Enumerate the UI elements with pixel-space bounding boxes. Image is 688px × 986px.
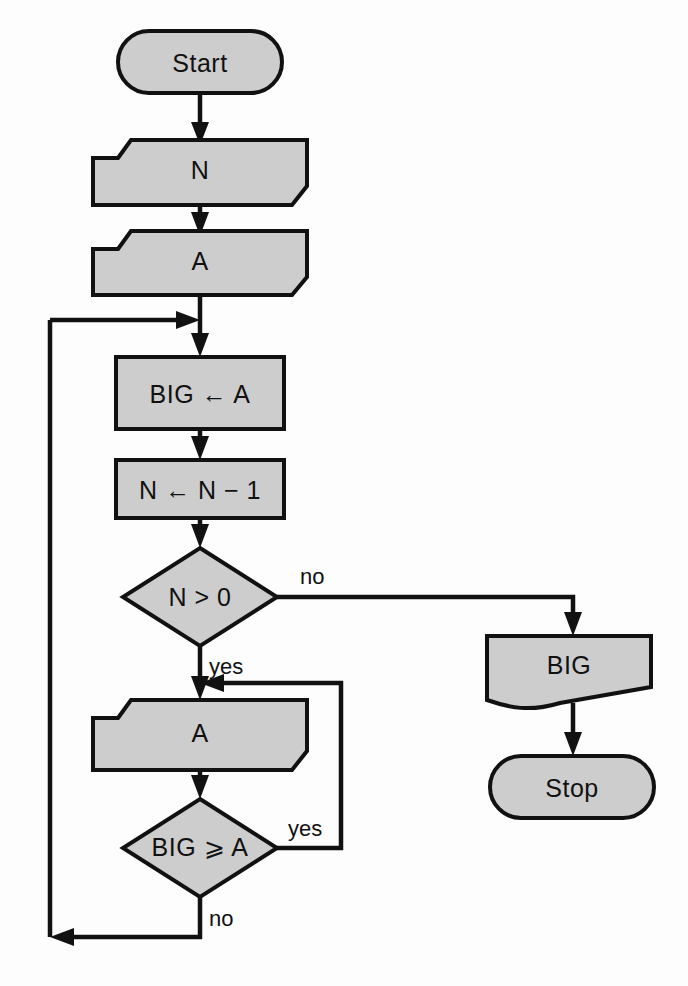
input-n-label: N xyxy=(191,156,210,184)
edge-decision-n-yes xyxy=(191,646,209,700)
edge-loop-merge-top xyxy=(50,311,200,329)
edge-output-big-to-stop xyxy=(564,703,582,756)
node-output-big[interactable]: BIG xyxy=(487,636,651,708)
assign-big-label: BIG ← A xyxy=(150,380,251,408)
start-label: Start xyxy=(172,49,227,77)
node-input-a-first[interactable]: A xyxy=(93,231,307,295)
output-big-label: BIG xyxy=(547,651,592,679)
node-start[interactable]: Start xyxy=(118,31,282,93)
node-decrement-n[interactable]: N ← N − 1 xyxy=(116,460,284,518)
edge-decrement-to-decision-n xyxy=(191,518,209,548)
node-input-a-loop[interactable]: A xyxy=(93,700,307,770)
node-assign-big[interactable]: BIG ← A xyxy=(116,357,284,429)
edge-start-to-input-n xyxy=(191,93,209,145)
edge-label-decision-big-yes: yes xyxy=(288,816,322,841)
edge-decision-n-no xyxy=(277,597,582,636)
input-a-loop-label: A xyxy=(191,719,208,747)
decision-n-label: N > 0 xyxy=(169,583,232,611)
node-stop[interactable]: Stop xyxy=(490,756,654,818)
node-decision-big[interactable]: BIG ⩾ A xyxy=(123,799,277,897)
edge-label-decision-big-no: no xyxy=(209,906,233,931)
flowchart-canvas: Start N A BIG ← A N ← N − 1 N > 0 xyxy=(0,0,688,986)
edge-input-a-loop-to-decision-big xyxy=(191,770,209,799)
decision-big-label: BIG ⩾ A xyxy=(152,833,249,861)
input-a-first-label: A xyxy=(191,247,208,275)
node-decision-n[interactable]: N > 0 xyxy=(123,548,277,646)
edge-input-a-to-assign-big xyxy=(191,295,209,357)
edge-label-decision-n-no: no xyxy=(300,564,324,589)
edge-assign-big-to-decrement xyxy=(191,429,209,460)
decrement-n-label: N ← N − 1 xyxy=(139,476,261,504)
flowchart-svg: Start N A BIG ← A N ← N − 1 N > 0 xyxy=(0,0,688,986)
node-input-n[interactable]: N xyxy=(93,140,307,205)
stop-label: Stop xyxy=(545,774,598,802)
edge-label-decision-n-yes: yes xyxy=(209,654,243,679)
